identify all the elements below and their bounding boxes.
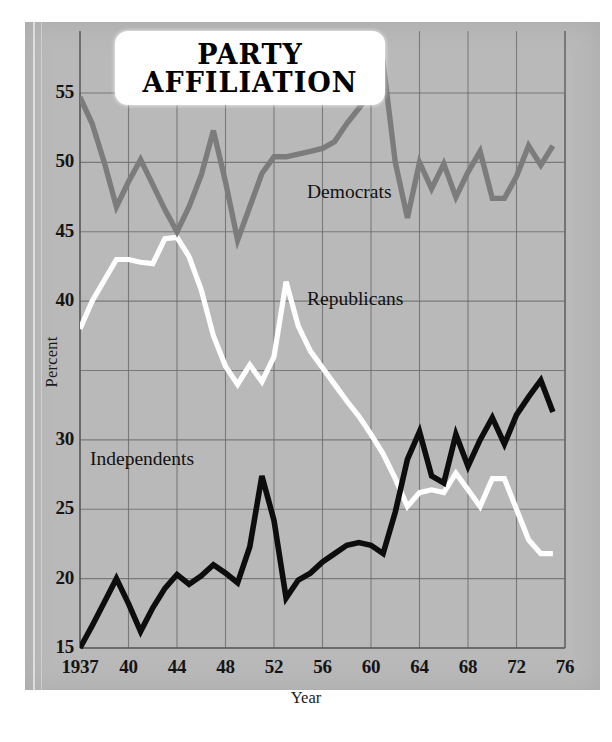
chart-screenshot: 5550454030252015 19374044485256606468727… (0, 0, 612, 742)
y-tick-50: 50 (28, 150, 74, 172)
x-tick-76: 76 (533, 656, 597, 678)
y-tick-30: 30 (28, 428, 74, 450)
chart-title-plaque: PARTY AFFILIATION (115, 31, 385, 105)
series-line-independents (80, 380, 553, 648)
x-axis-tick-labels: 193740444852566064687276 (0, 656, 612, 686)
chart-title-line-1: PARTY (197, 41, 303, 68)
chart-plot-svg (0, 0, 612, 742)
y-tick-15: 15 (28, 636, 74, 658)
series-annotation-democrats: Democrats (307, 181, 391, 203)
chart-title-line-2: AFFILIATION (143, 69, 358, 96)
chart-series-layer (80, 63, 553, 649)
series-annotation-independents: Independents (90, 448, 194, 470)
y-tick-45: 45 (28, 220, 74, 242)
series-annotation-republicans: Republicans (307, 288, 403, 310)
x-axis-title: Year (0, 688, 612, 708)
series-line-republicans (80, 237, 553, 553)
y-tick-25: 25 (28, 497, 74, 519)
y-tick-20: 20 (28, 567, 74, 589)
y-tick-55: 55 (28, 81, 74, 103)
y-axis-title: Percent (42, 302, 62, 422)
